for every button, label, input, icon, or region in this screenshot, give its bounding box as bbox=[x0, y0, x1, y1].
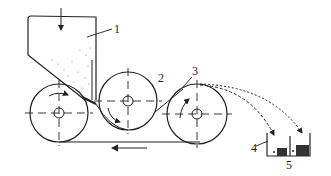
label-1: 1 bbox=[114, 22, 120, 36]
separator-diagram: 1 2 3 bbox=[0, 0, 331, 176]
rotation-arrow-icon bbox=[108, 108, 120, 122]
trajectory-far bbox=[200, 84, 302, 133]
label-2: 2 bbox=[158, 71, 164, 85]
label-4: 4 bbox=[251, 141, 257, 155]
collected-particles bbox=[273, 145, 309, 156]
right-roller bbox=[162, 80, 232, 148]
trajectories bbox=[200, 84, 302, 135]
label-5: 5 bbox=[286, 158, 292, 172]
hopper: 1 bbox=[28, 8, 120, 100]
rotation-arrow-icon bbox=[49, 93, 68, 96]
left-roller bbox=[25, 80, 93, 146]
collection-bin bbox=[267, 133, 310, 156]
rotation-arrow-icon bbox=[180, 99, 189, 118]
label-3: 3 bbox=[192, 64, 198, 78]
middle-roller bbox=[94, 68, 162, 134]
trajectory-near bbox=[200, 85, 274, 135]
belt bbox=[59, 142, 200, 148]
leader-line-4 bbox=[256, 141, 268, 146]
leader-line-1 bbox=[87, 29, 112, 37]
